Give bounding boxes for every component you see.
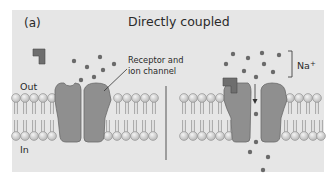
- receptor-label-line2: ion channel: [128, 66, 183, 77]
- receptor-callout: Receptor and ion channel: [128, 55, 183, 76]
- closed-ion-channel: [55, 83, 111, 142]
- outside-label: Out: [20, 82, 37, 92]
- right-membrane-lipid-bilayer: [180, 94, 326, 141]
- ion-flow-arrow: [253, 84, 258, 104]
- ligand-unbound: [33, 49, 45, 64]
- left-ion-dots: [72, 55, 116, 82]
- sodium-ion-label: Na+: [297, 61, 316, 71]
- figure-title: Directly coupled: [128, 16, 230, 29]
- ion-charge: +: [310, 60, 316, 68]
- receptor-pointer-line: [104, 69, 127, 91]
- ion-bracket: [288, 51, 292, 77]
- inside-label: In: [20, 145, 29, 155]
- panel-label: (a): [24, 17, 41, 29]
- receptor-label-line1: Receptor and: [128, 55, 183, 66]
- ion-symbol: Na: [297, 60, 310, 71]
